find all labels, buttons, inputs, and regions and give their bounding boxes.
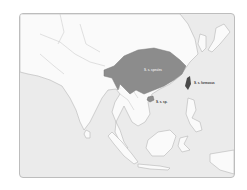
label-taiwan: S. s. formosus	[194, 81, 215, 85]
land-java	[138, 164, 170, 170]
range-taiwan	[185, 76, 191, 90]
land-borneo	[146, 130, 176, 156]
label-hainan: S. s. sp.	[156, 100, 167, 104]
land-sumatra	[108, 132, 138, 164]
land-philippines	[186, 98, 202, 132]
map-canvas	[20, 14, 234, 177]
land-new-guinea	[210, 150, 234, 174]
map-frame: S. s. species S. s. formosus S. s. sp.	[19, 13, 235, 178]
land-sri-lanka	[84, 130, 90, 138]
land-sulawesi	[178, 136, 190, 152]
land-japan	[208, 24, 230, 52]
land-korea	[198, 34, 206, 52]
label-main-range: S. s. species	[144, 68, 162, 72]
